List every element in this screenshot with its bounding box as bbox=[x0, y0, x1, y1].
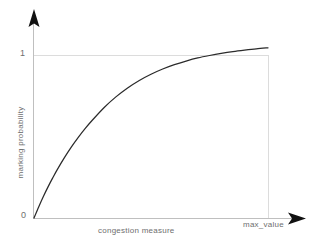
chart-plot-area bbox=[0, 0, 321, 250]
x-axis-title: congestion measure bbox=[98, 226, 175, 235]
y-axis-tick-label-one: 1 bbox=[20, 48, 25, 58]
chart-figure: 1 0 marking probability congestion measu… bbox=[0, 0, 321, 250]
marking-probability-curve bbox=[34, 48, 268, 218]
y-axis-title: marking probability bbox=[16, 93, 25, 193]
origin-tick-label-zero: 0 bbox=[21, 210, 26, 220]
x-axis-tick-label-max-value: max_value bbox=[243, 220, 284, 229]
